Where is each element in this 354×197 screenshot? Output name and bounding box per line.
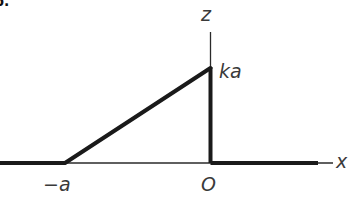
- diagram-canvas: [0, 0, 354, 197]
- neg-a-tick-label: −a: [43, 175, 71, 194]
- origin-label: O: [201, 175, 216, 194]
- function-ramp-segment: [65, 68, 211, 163]
- z-axis-label: z: [201, 5, 211, 24]
- x-axis-label: x: [336, 152, 347, 171]
- peak-value-label: ka: [219, 62, 242, 81]
